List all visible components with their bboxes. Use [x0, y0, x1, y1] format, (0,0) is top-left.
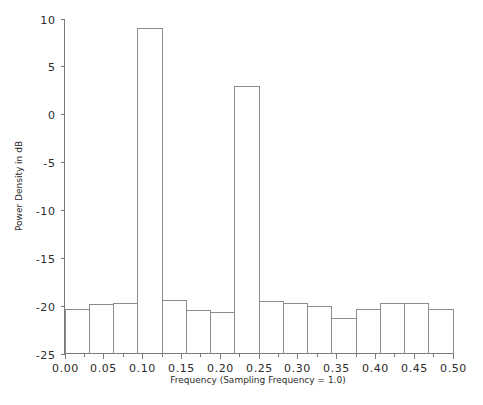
x-axis-title: Frequency (Sampling Frequency = 1.0) [170, 375, 345, 385]
chart-background [0, 0, 483, 405]
chart-canvas: 1050-5-10-15-20-25 0.000.050.100.150.200… [0, 0, 483, 405]
x-tick-label: 0.40 [362, 362, 389, 375]
y-tick-label: -25 [36, 349, 56, 362]
y-tick-label: -10 [36, 205, 56, 218]
y-tick-label: -15 [36, 253, 56, 266]
x-tick-label: 0.05 [90, 362, 117, 375]
x-tick-label: 0.00 [52, 362, 79, 375]
x-tick-label: 0.25 [246, 362, 273, 375]
x-tick-label: 0.50 [440, 362, 467, 375]
x-tick-label: 0.30 [284, 362, 311, 375]
x-tick-label: 0.20 [207, 362, 234, 375]
x-tick-label: 0.35 [323, 362, 350, 375]
x-tick-label: 0.15 [168, 362, 195, 375]
y-tick-label: 5 [48, 61, 56, 74]
y-tick-label: -20 [36, 301, 56, 314]
y-axis-title: Power Density in dB [14, 141, 24, 231]
x-tick-label: 0.45 [401, 362, 428, 375]
y-tick-label: 0 [48, 109, 56, 122]
power-density-chart-figure: 1050-5-10-15-20-25 0.000.050.100.150.200… [0, 0, 483, 405]
y-tick-label: 10 [40, 14, 55, 27]
y-tick-label: -5 [43, 157, 55, 170]
x-tick-label: 0.10 [129, 362, 156, 375]
